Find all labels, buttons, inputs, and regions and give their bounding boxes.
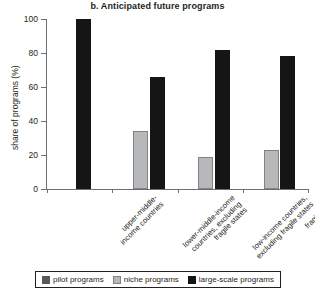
bar-niche-programs-2 xyxy=(198,157,213,189)
plot-area xyxy=(47,19,308,189)
y-axis-tick-label: 60 xyxy=(0,83,38,92)
bar-large-scale-programs-3 xyxy=(280,56,295,189)
bar-large-scale-programs-1 xyxy=(150,77,165,189)
y-axis-tick xyxy=(41,155,46,156)
bar-niche-programs-3 xyxy=(264,150,279,189)
y-axis-title: share of programs (%) xyxy=(10,65,20,150)
bar-large-scale-programs-2 xyxy=(215,50,230,189)
x-axis-labels: upper-middle- income countrieslower-midd… xyxy=(0,190,315,252)
y-axis-tick xyxy=(41,121,46,122)
legend-swatch-icon xyxy=(188,276,196,284)
y-axis-tick xyxy=(41,87,46,88)
legend-item-pilot-programs[interactable]: pilot programs xyxy=(42,276,104,284)
legend-item-large-scale-programs[interactable]: large-scale programs xyxy=(188,276,274,284)
y-axis-tick-label: 100 xyxy=(0,15,38,24)
legend-label: niche programs xyxy=(124,276,179,284)
chart-title: b. Anticipated future programs xyxy=(0,1,315,11)
x-axis-label-0: upper-middle- income countries xyxy=(112,194,165,247)
y-axis-tick xyxy=(41,19,46,20)
y-axis-tick-label: 20 xyxy=(0,151,38,160)
y-axis-tick-label: 80 xyxy=(0,49,38,58)
chart-container: b. Anticipated future programs share of … xyxy=(0,0,315,293)
y-axis-tick xyxy=(41,53,46,54)
x-axis-label-1: lower-middle-income countries, excluding… xyxy=(181,194,249,262)
legend-item-niche-programs[interactable]: niche programs xyxy=(113,276,179,284)
legend-label: pilot programs xyxy=(53,276,104,284)
bar-niche-programs-1 xyxy=(133,131,148,189)
chart-legend: pilot programsniche programslarge-scale … xyxy=(35,271,281,288)
x-axis-label-2: low-income countries, excluding fragile … xyxy=(249,194,315,261)
bar-large-scale-programs-0 xyxy=(76,19,91,189)
legend-label: large-scale programs xyxy=(199,276,274,284)
legend-swatch-icon xyxy=(42,276,50,284)
legend-swatch-icon xyxy=(113,276,121,284)
y-axis-tick-label: 40 xyxy=(0,117,38,126)
